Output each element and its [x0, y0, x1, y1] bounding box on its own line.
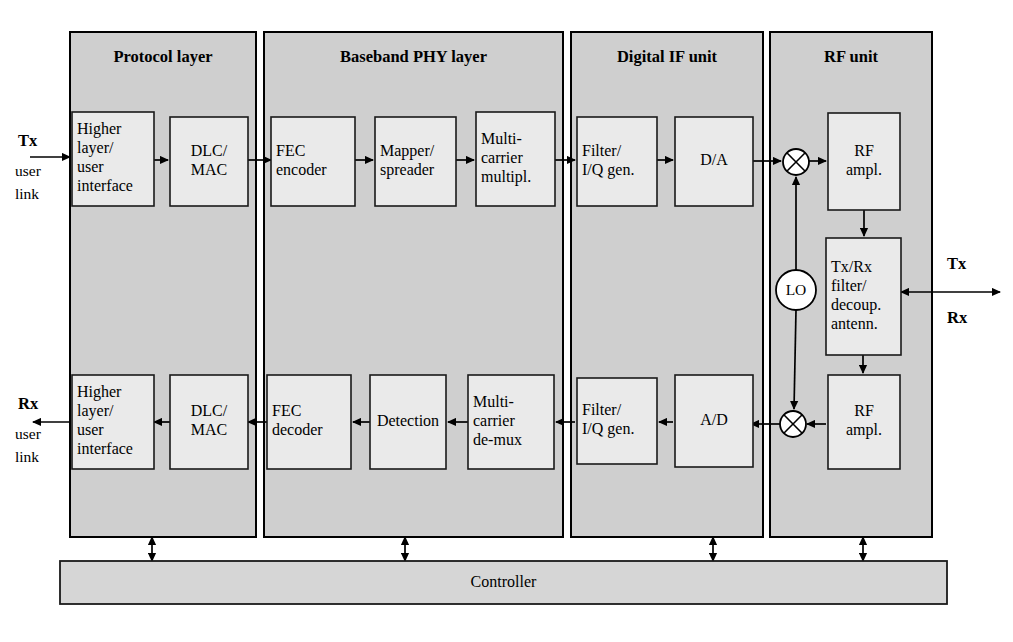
block-label-higher-layer-user-interface-rx-line-2: user — [77, 421, 104, 438]
panel-title-baseband: Baseband PHY layer — [340, 47, 487, 66]
block-label-fec-encoder-line-0: FEC — [276, 142, 305, 159]
io-antenna_tx-label: Tx — [947, 254, 967, 273]
block-label-ad-converter-line-0: A/D — [700, 411, 728, 428]
block-label-rf-ampl-rx-line-0: RF — [854, 402, 874, 419]
block-label-fec-decoder-line-1: decoder — [272, 421, 323, 438]
block-tx-rx-filter-decoup-antenn: Tx/Rxfilter/decoup.antenn. — [826, 238, 901, 355]
controller-bar: Controller — [60, 561, 947, 604]
block-dlc-mac-tx: DLC/MAC — [170, 117, 248, 206]
block-label-fec-decoder-line-0: FEC — [272, 402, 301, 419]
block-label-higher-layer-user-interface-rx-line-3: interface — [77, 440, 133, 457]
io-tx_in: Txuserlink — [15, 131, 42, 202]
block-higher-layer-user-interface-rx: Higherlayer/userinterface — [72, 375, 154, 469]
block-ad-converter: A/D — [675, 375, 753, 467]
block-label-dlc-mac-tx-line-1: MAC — [191, 161, 227, 178]
mixer-rx — [780, 411, 806, 437]
block-label-higher-layer-user-interface-rx-line-0: Higher — [77, 383, 122, 401]
block-label-dlc-mac-rx-line-0: DLC/ — [191, 402, 228, 419]
block-label-tx-rx-filter-decoup-antenn-line-0: Tx/Rx — [831, 258, 872, 275]
block-label-higher-layer-user-interface-rx-line-1: layer/ — [77, 402, 114, 420]
block-label-da-converter-line-0: D/A — [700, 151, 728, 168]
panel-title-protocol: Protocol layer — [113, 47, 212, 66]
block-label-mapper-spreader-line-0: Mapper/ — [380, 142, 435, 160]
block-label-multi-carrier-multipl-line-1: carrier — [481, 149, 523, 166]
block-label-multi-carrier-multipl-line-0: Multi- — [481, 130, 522, 147]
block-label-higher-layer-user-interface-tx-line-2: user — [77, 158, 104, 175]
io-antenna_tx: Tx — [947, 254, 967, 273]
block-label-detection-line-0: Detection — [377, 412, 439, 429]
block-label-mapper-spreader-line-1: spreader — [380, 161, 435, 179]
io-antenna_rx: Rx — [947, 308, 968, 327]
transceiver-block-diagram: Protocol layerBaseband PHY layerDigital … — [0, 0, 1013, 642]
block-mapper-spreader: Mapper/spreader — [375, 117, 456, 206]
block-multi-carrier-de-mux: Multi-carrierde-mux — [468, 375, 554, 469]
block-label-higher-layer-user-interface-tx-line-1: layer/ — [77, 139, 114, 157]
io-tx_in-sub2: link — [15, 185, 39, 202]
controller-layer: Controller — [60, 537, 947, 604]
block-fec-encoder: FECencoder — [271, 117, 355, 206]
block-label-filter-iq-gen-rx-line-0: Filter/ — [582, 401, 622, 418]
io-rx_out-label: Rx — [18, 394, 39, 413]
io-antenna_rx-label: Rx — [947, 308, 968, 327]
block-label-multi-carrier-multipl-line-2: multipl. — [481, 168, 531, 186]
io-tx_in-sub1: user — [15, 162, 42, 179]
block-label-rf-ampl-tx-line-0: RF — [854, 142, 874, 159]
block-filter-iq-gen-tx: Filter/I/Q gen. — [577, 117, 657, 206]
block-label-tx-rx-filter-decoup-antenn-line-3: antenn. — [831, 315, 878, 332]
block-label-higher-layer-user-interface-tx-line-0: Higher — [77, 120, 122, 138]
block-multi-carrier-multipl: Multi-carriermultipl. — [476, 112, 555, 206]
block-label-multi-carrier-de-mux-line-1: carrier — [473, 412, 515, 429]
block-label-filter-iq-gen-rx-line-1: I/Q gen. — [582, 420, 634, 438]
block-fec-decoder: FECdecoder — [267, 375, 351, 469]
mixer-tx — [783, 149, 809, 175]
block-detection: Detection — [370, 375, 446, 469]
block-label-multi-carrier-de-mux-line-0: Multi- — [473, 393, 514, 410]
panel-title-rf: RF unit — [824, 47, 878, 66]
block-dlc-mac-rx: DLC/MAC — [170, 375, 248, 469]
block-label-tx-rx-filter-decoup-antenn-line-1: filter/ — [831, 277, 867, 294]
block-label-multi-carrier-de-mux-line-2: de-mux — [473, 431, 522, 448]
block-rf-ampl-tx: RFampl. — [828, 113, 900, 210]
block-label-filter-iq-gen-tx-line-1: I/Q gen. — [582, 161, 634, 179]
block-label-higher-layer-user-interface-tx-line-3: interface — [77, 177, 133, 194]
block-higher-layer-user-interface-tx: Higherlayer/userinterface — [72, 112, 154, 206]
block-label-dlc-mac-tx-line-0: DLC/ — [191, 142, 228, 159]
block-label-rf-ampl-tx-line-1: ampl. — [846, 161, 882, 179]
block-rf-ampl-rx: RFampl. — [828, 375, 900, 469]
block-filter-iq-gen-rx: Filter/I/Q gen. — [577, 378, 657, 464]
controller-label: Controller — [471, 573, 537, 590]
local-oscillator: LO — [776, 270, 816, 310]
block-diagram-root: Protocol layerBaseband PHY layerDigital … — [0, 0, 1013, 642]
block-label-rf-ampl-rx-line-1: ampl. — [846, 421, 882, 439]
local-oscillator-label: LO — [786, 281, 807, 298]
block-label-fec-encoder-line-1: encoder — [276, 161, 327, 178]
block-da-converter: D/A — [675, 117, 753, 206]
block-label-filter-iq-gen-tx-line-0: Filter/ — [582, 142, 622, 159]
io-tx_in-label: Tx — [18, 131, 38, 150]
io-rx_out-sub1: user — [15, 425, 42, 442]
block-label-tx-rx-filter-decoup-antenn-line-2: decoup. — [831, 296, 881, 314]
panel-title-digital_if: Digital IF unit — [617, 47, 718, 66]
io-rx_out: Rxuserlink — [15, 394, 42, 465]
io-rx_out-sub2: link — [15, 448, 39, 465]
block-label-dlc-mac-rx-line-1: MAC — [191, 421, 227, 438]
